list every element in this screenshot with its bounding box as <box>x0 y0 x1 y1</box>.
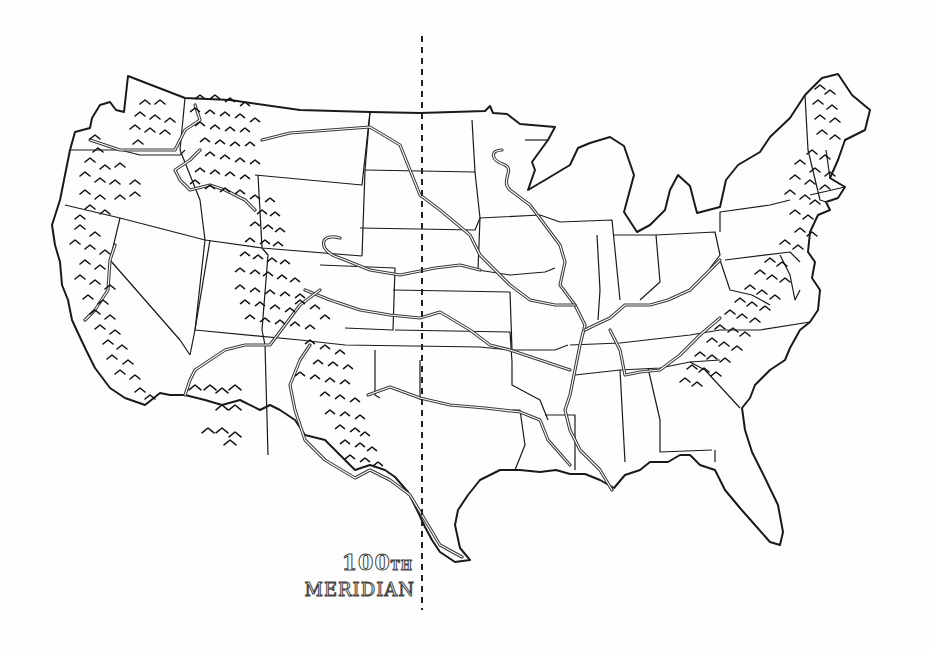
arkansas-river <box>305 290 570 370</box>
meridian-number-label: 100TH <box>330 551 413 577</box>
red-river <box>368 387 570 465</box>
platte-river <box>324 237 481 275</box>
ohio-river <box>585 260 720 330</box>
rivers <box>85 105 720 557</box>
colorado-river <box>185 290 320 395</box>
tennessee-river <box>610 318 720 375</box>
sacramento-river <box>85 245 115 320</box>
meridian-word-label: MERIDIAN <box>290 580 415 600</box>
snake-river <box>175 150 255 210</box>
us-map <box>0 0 931 651</box>
state-borders <box>65 95 845 470</box>
